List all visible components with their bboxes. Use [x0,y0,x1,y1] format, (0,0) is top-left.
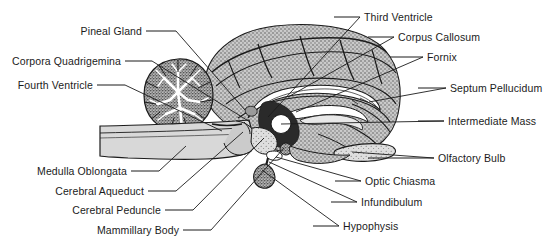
label-hypophysis: Hypophysis [343,221,398,232]
label-mammillary-body: Mammillary Body [97,225,179,236]
label-intermediate-mass: Intermediate Mass [448,116,536,127]
label-optic-chiasma: Optic Chiasma [365,176,435,187]
label-corpus-callosum: Corpus Callosum [398,32,480,43]
label-corpora-quadrigemina: Corpora Quadrigemina [12,56,121,67]
label-pineal-gland: Pineal Gland [81,26,142,37]
label-fornix: Fornix [427,52,457,63]
label-fourth-ventricle: Fourth Ventricle [18,80,93,91]
label-olfactory-bulb: Olfactory Bulb [438,153,505,164]
brain-diagram-figure: Pineal GlandCorpora QuadrigeminaFourth V… [0,0,546,248]
cerebellum-structure [144,59,213,131]
label-septum-pellucidum: Septum Pellucidum [450,83,542,94]
label-medulla-oblongata: Medulla Oblongata [37,166,127,177]
label-cerebral-peduncle: Cerebral Peduncle [72,205,161,216]
label-cerebral-aqueduct: Cerebral Aqueduct [55,186,144,197]
label-third-ventricle: Third Ventricle [364,12,433,23]
pineal-gland-structure [245,106,257,116]
label-infundibulum: Infundibulum [361,197,422,208]
